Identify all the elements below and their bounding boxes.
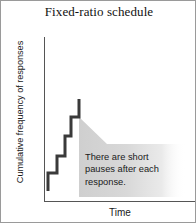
annotation-text: There are short pauses after each respon… <box>85 151 177 188</box>
cumulative-response-staircase <box>48 99 79 191</box>
fixed-ratio-schedule-figure: Fixed-ratio schedule Cumulative frequenc… <box>0 0 196 223</box>
y-axis-label: Cumulative frequency of responses <box>15 32 25 192</box>
x-axis-label: Time <box>44 207 196 218</box>
plot-area <box>1 1 196 223</box>
